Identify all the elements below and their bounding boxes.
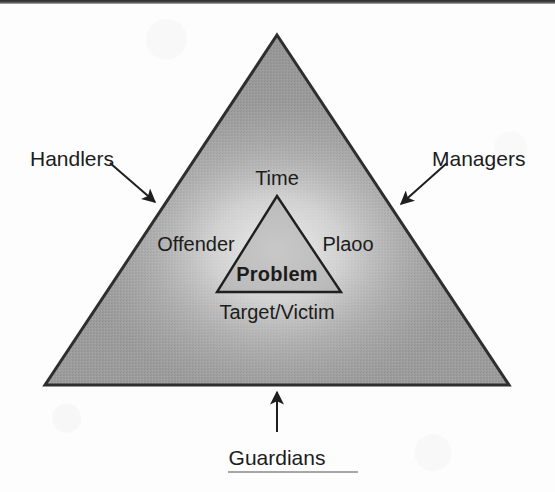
target-victim-label: Target/Victim [219,302,334,322]
place-label: Plaoo [322,234,373,254]
offender-label: Offender [157,234,234,254]
problem-label: Problem [236,264,317,284]
time-label: Time [255,168,299,188]
guardians-label: Guardians [229,447,326,468]
diagram-canvas: Handlers Managers Guardians Time Offende… [0,0,555,492]
problem-analysis-triangle-figure [0,0,555,492]
managers-label: Managers [432,148,525,169]
handlers-label: Handlers [30,148,114,169]
handlers-arrow [110,163,155,202]
